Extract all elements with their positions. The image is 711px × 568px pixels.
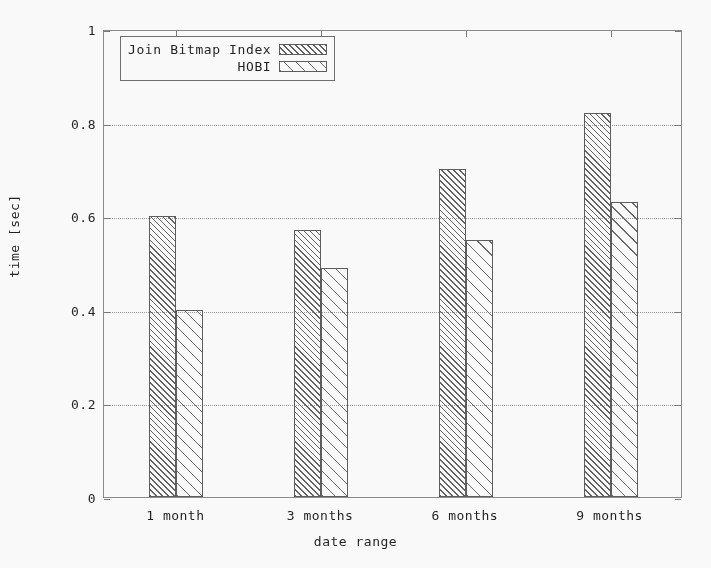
bar <box>466 240 493 497</box>
legend-item: HOBI <box>128 58 327 75</box>
x-tick-label: 3 months <box>287 508 354 523</box>
y-axis-title: time [sec] <box>7 194 22 277</box>
axis-tick <box>675 31 681 32</box>
y-tick-label: 0 <box>88 491 96 506</box>
legend-label: HOBI <box>238 59 272 74</box>
axis-tick <box>104 125 110 126</box>
bar <box>149 216 176 497</box>
axis-tick <box>466 31 467 37</box>
axis-tick <box>104 405 110 406</box>
bar <box>176 310 203 497</box>
legend: Join Bitmap Index HOBI <box>120 36 335 81</box>
x-tick-label: 9 months <box>576 508 643 523</box>
x-tick-label: 6 months <box>432 508 499 523</box>
y-tick-label: 0.8 <box>71 116 96 131</box>
axis-tick <box>675 312 681 313</box>
y-tick-label: 1 <box>88 23 96 38</box>
bar <box>321 268 348 497</box>
axis-tick <box>675 125 681 126</box>
bar <box>439 169 466 497</box>
dense-hatch-swatch <box>279 44 327 55</box>
y-tick-label: 0.4 <box>71 303 96 318</box>
axis-tick <box>104 31 110 32</box>
y-tick-label: 0.2 <box>71 397 96 412</box>
sparse-hatch-swatch <box>279 61 327 72</box>
legend-item: Join Bitmap Index <box>128 41 327 58</box>
axis-tick <box>675 405 681 406</box>
axis-tick <box>675 499 681 500</box>
bar <box>294 230 321 497</box>
bar <box>611 202 638 497</box>
legend-label: Join Bitmap Index <box>128 42 271 57</box>
x-axis-title: date range <box>0 534 711 549</box>
x-tick-label: 1 month <box>146 508 204 523</box>
axis-tick <box>104 218 110 219</box>
y-tick-label: 0.6 <box>71 210 96 225</box>
axis-tick <box>104 312 110 313</box>
bar-chart-figure: time [sec] date range 00.20.40.60.81 1 m… <box>0 0 711 568</box>
plot-area: Join Bitmap Index HOBI <box>103 30 682 498</box>
axis-tick <box>104 499 110 500</box>
axis-tick <box>611 31 612 37</box>
bar <box>584 113 611 497</box>
axis-tick <box>675 218 681 219</box>
